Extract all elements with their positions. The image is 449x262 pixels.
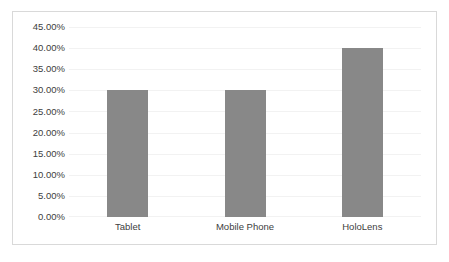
bar-tablet bbox=[107, 90, 148, 217]
y-axis: 45.00% 40.00% 35.00% 30.00% 25.00% 20.00… bbox=[13, 12, 65, 246]
y-tick-label: 40.00% bbox=[13, 43, 65, 53]
x-tick-label-tablet: Tablet bbox=[68, 222, 188, 232]
y-tick-label: 35.00% bbox=[13, 64, 65, 74]
y-tick-label: 5.00% bbox=[13, 191, 65, 201]
bar-mobile-phone bbox=[225, 90, 266, 217]
y-tick-label: 10.00% bbox=[13, 170, 65, 180]
bar-chart-figure: 45.00% 40.00% 35.00% 30.00% 25.00% 20.00… bbox=[12, 11, 437, 245]
bars-layer bbox=[69, 27, 421, 217]
y-tick-label: 45.00% bbox=[13, 22, 65, 32]
y-tick-label: 15.00% bbox=[13, 149, 65, 159]
plot-area bbox=[69, 27, 421, 217]
x-tick-label-hololens: HoloLens bbox=[302, 222, 422, 232]
y-tick-label: 30.00% bbox=[13, 85, 65, 95]
y-tick-label: 0.00% bbox=[13, 212, 65, 222]
y-tick-label: 20.00% bbox=[13, 128, 65, 138]
x-tick-label-mobile-phone: Mobile Phone bbox=[185, 222, 305, 232]
y-tick-label: 25.00% bbox=[13, 107, 65, 117]
bar-hololens bbox=[342, 48, 383, 217]
x-axis: Tablet Mobile Phone HoloLens bbox=[69, 222, 421, 242]
